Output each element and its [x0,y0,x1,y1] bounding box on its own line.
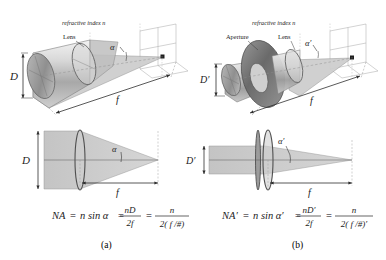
formula-a-lhs: NA [51,210,66,221]
formula-a-frac1-num: nD [125,205,137,215]
caption-a: (a) [101,240,112,251]
figure-numerical-aperture: refractive index n Lens D α f D α f NA =… [0,0,386,260]
formula-a-frac2-den: 2( f /#) [160,219,185,229]
aperture-label-b: Aperture [226,33,249,40]
section-diameter-label-b: D′ [185,155,196,166]
formula-a-term1: n sin α [80,210,109,221]
medium-label-a: refractive index n [62,19,105,26]
section-diameter-label-a: D [21,154,30,166]
lens-label-b: Lens [278,33,291,40]
formula-b-frac1-num: nD′ [303,205,317,215]
angle-label-b: α′ [305,38,311,48]
figure-background [0,0,386,260]
caption-b: (b) [292,240,303,251]
focal-point-a [161,55,165,59]
diameter-label-b: D′ [199,74,210,85]
formula-b-frac2-num: n [352,205,357,215]
formula-b-frac2-den: 2( f /#)′ [341,219,368,229]
formula-b-term1: n sin α′ [253,210,284,221]
lens-label-a: Lens [63,33,76,40]
formula-a-frac2-num: n [170,205,175,215]
section-angle-label-a: α [112,144,117,154]
section-angle-label-b: α′ [278,136,284,146]
formula-b-lhs: NA′ [221,210,238,221]
formula-a-eq3: = [146,210,152,221]
formula-b-eq2: = [295,210,301,221]
figure-canvas: refractive index n Lens D α f D α f NA =… [0,0,386,260]
angle-label-a: α [110,42,115,52]
formula-a-eq1: = [70,210,76,221]
medium-label-b: refractive index n [252,19,295,26]
formula-b-eq1: = [243,210,249,221]
diameter-label-a: D [9,70,18,82]
formula-a-eq2: = [118,210,124,221]
formula-b-eq3: = [326,210,332,221]
